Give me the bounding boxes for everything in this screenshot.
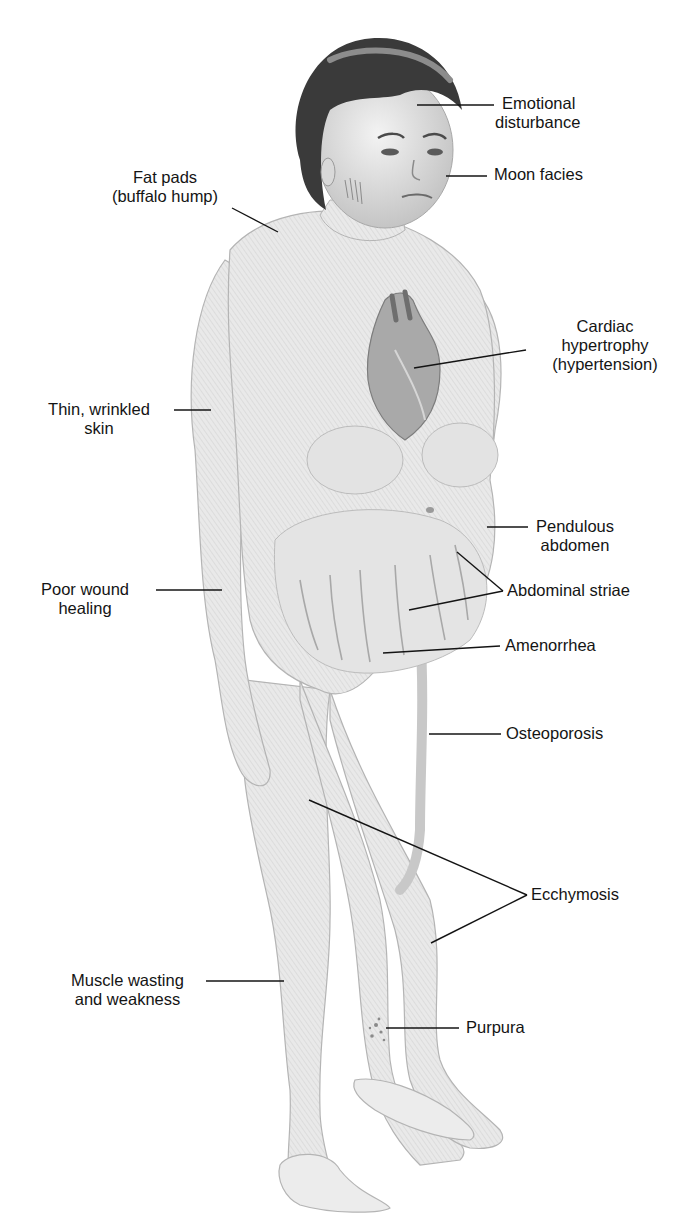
label-purpura: Purpura <box>466 1018 525 1037</box>
label-line: Amenorrhea <box>505 636 596 655</box>
label-line: Pendulous <box>520 517 630 536</box>
label-line: and weakness <box>50 990 205 1009</box>
label-line: Thin, wrinkled <box>24 400 174 419</box>
label-abdominal-striae: Abdominal striae <box>507 581 630 600</box>
label-cardiac-hypertrophy: Cardiac hypertrophy (hypertension) <box>515 317 695 374</box>
label-line: abdomen <box>520 536 630 555</box>
label-ecchymosis: Ecchymosis <box>531 885 619 904</box>
label-poor-wound-healing: Poor wound healing <box>20 580 150 618</box>
label-line: healing <box>20 599 150 618</box>
label-line: (hypertension) <box>515 355 695 374</box>
label-osteoporosis: Osteoporosis <box>506 724 603 743</box>
label-muscle-wasting: Muscle wasting and weakness <box>50 971 205 1009</box>
label-thin-wrinkled-skin: Thin, wrinkled skin <box>24 400 174 438</box>
label-line: Purpura <box>466 1018 525 1037</box>
legs <box>242 630 503 1212</box>
label-line: Abdominal striae <box>507 581 630 600</box>
label-line: Moon facies <box>494 165 583 184</box>
label-pendulous-abdomen: Pendulous abdomen <box>520 517 630 555</box>
head <box>296 38 462 228</box>
label-line: hypertrophy <box>515 336 695 355</box>
label-moon-facies: Moon facies <box>494 165 583 184</box>
label-line: Muscle wasting <box>50 971 205 990</box>
label-line: Ecchymosis <box>531 885 619 904</box>
label-line: Fat pads <box>90 168 240 187</box>
label-emotional-disturbance: Emotional disturbance <box>502 94 580 132</box>
label-line: skin <box>24 419 174 438</box>
label-line: Poor wound <box>20 580 150 599</box>
label-line: Osteoporosis <box>506 724 603 743</box>
label-line: Cardiac <box>515 317 695 336</box>
label-line: Emotional <box>502 94 580 113</box>
label-line: disturbance <box>495 113 580 132</box>
diagram-stage: Emotional disturbance Moon facies Fat pa… <box>0 0 700 1218</box>
label-fat-pads: Fat pads (buffalo hump) <box>90 168 240 206</box>
label-line: (buffalo hump) <box>90 187 240 206</box>
label-amenorrhea: Amenorrhea <box>505 636 596 655</box>
